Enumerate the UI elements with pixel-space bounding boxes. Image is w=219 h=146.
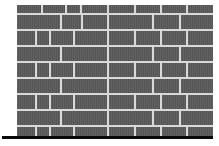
brick: [162, 95, 186, 109]
brick: [37, 63, 49, 77]
brick: [17, 5, 41, 13]
brick: [75, 127, 107, 136]
brick-course: [17, 15, 213, 29]
brick: [17, 111, 60, 125]
brick: [17, 79, 60, 93]
brick: [154, 47, 179, 61]
brick: [62, 111, 107, 125]
brick: [162, 5, 186, 13]
brick: [62, 79, 107, 93]
brick: [109, 79, 152, 93]
brick-course: [17, 111, 213, 125]
brick: [67, 5, 80, 13]
brick-course: [17, 5, 213, 13]
brick: [162, 31, 186, 45]
brick: [109, 31, 134, 45]
brick: [37, 127, 49, 136]
brick: [17, 15, 60, 29]
brick: [17, 95, 35, 109]
brick: [154, 79, 179, 93]
brick-course: [17, 95, 213, 109]
brick: [181, 111, 213, 125]
brick: [43, 5, 65, 13]
brick-course: [17, 47, 213, 61]
brick: [17, 63, 35, 77]
brick: [17, 31, 35, 45]
brick: [109, 95, 134, 109]
brick: [83, 15, 107, 29]
brick: [181, 47, 213, 61]
brick-course: [17, 79, 213, 93]
brick: [162, 127, 186, 136]
brick: [75, 31, 107, 45]
brick: [181, 79, 213, 93]
brick: [188, 127, 213, 136]
brick: [62, 15, 81, 29]
brick: [51, 95, 73, 109]
brick: [181, 15, 213, 29]
brick: [51, 127, 73, 136]
brick: [109, 127, 134, 136]
brick: [188, 63, 213, 77]
brick-wall-figure: [0, 0, 219, 146]
brick: [154, 111, 179, 125]
brick: [17, 127, 35, 136]
brick: [37, 31, 49, 45]
brick: [188, 95, 213, 109]
brick: [62, 47, 107, 61]
brick: [51, 63, 73, 77]
brick: [109, 15, 152, 29]
brick: [136, 95, 160, 109]
brick: [136, 31, 160, 45]
brick: [75, 95, 107, 109]
brick: [37, 95, 49, 109]
brick: [109, 63, 134, 77]
brick-wall: [17, 5, 213, 136]
brick: [162, 63, 186, 77]
brick: [154, 15, 179, 29]
brick-course: [17, 31, 213, 45]
brick: [51, 31, 73, 45]
brick: [109, 5, 134, 13]
brick: [82, 5, 107, 13]
brick: [75, 63, 107, 77]
brick: [109, 111, 152, 125]
brick-course: [17, 127, 213, 136]
ground-line: [2, 136, 213, 139]
brick-course: [17, 63, 213, 77]
brick: [188, 31, 213, 45]
brick: [188, 5, 213, 13]
brick: [17, 47, 60, 61]
brick: [136, 5, 160, 13]
brick: [136, 63, 160, 77]
brick: [109, 47, 152, 61]
brick: [136, 127, 160, 136]
